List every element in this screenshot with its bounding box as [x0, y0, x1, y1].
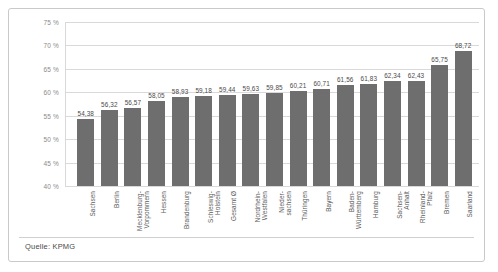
bar-value-label: 62,43: [408, 72, 425, 79]
bar[interactable]: [384, 81, 401, 186]
y-axis-tick-label: 65 %: [43, 65, 59, 72]
x-axis-category-line: Anhalt: [403, 191, 410, 219]
bar[interactable]: [266, 93, 283, 186]
x-axis-category-label: Bremen: [443, 191, 450, 214]
bar-group[interactable]: 61,83Hamburg: [357, 22, 381, 186]
bar-value-label: 65,75: [431, 56, 448, 63]
x-axis-category-line: Saarland: [466, 191, 473, 217]
x-axis-category-label: Hamburg: [372, 191, 379, 218]
x-axis-category-line: Mecklenburg-: [136, 191, 143, 231]
bar-group[interactable]: 62,34Sachsen-Anhalt: [381, 22, 405, 186]
bar-group[interactable]: 60,21Thüringen: [286, 22, 310, 186]
bar-group[interactable]: 59,85Nieder-sachsen: [263, 22, 287, 186]
bar[interactable]: [408, 81, 425, 186]
x-axis-category-line: Vorpommern: [144, 191, 151, 231]
bar-group[interactable]: 54,38Sachsen: [74, 22, 98, 186]
bar[interactable]: [242, 94, 259, 186]
bar-group[interactable]: 61,56Baden-Württemberg: [333, 22, 357, 186]
bar-value-label: 56,32: [101, 101, 118, 108]
x-axis-category-line: Nieder-: [278, 191, 285, 216]
bar-group[interactable]: 60,71Bayern: [310, 22, 334, 186]
bar-group[interactable]: 58,93Brandenburg: [168, 22, 192, 186]
x-axis-category-line: Bayern: [325, 191, 332, 212]
x-axis-category-line: Sachsen: [89, 191, 96, 217]
y-axis-tick-label: 40 %: [43, 183, 59, 190]
bar[interactable]: [77, 119, 94, 186]
x-axis-category-line: Thüringen: [301, 191, 308, 221]
bar-value-label: 61,56: [337, 76, 354, 83]
bar-value-label: 61,83: [361, 75, 378, 82]
x-axis-category-label: Baden-Württemberg: [348, 191, 363, 229]
bar[interactable]: [124, 108, 141, 186]
bar-value-label: 58,93: [172, 88, 189, 95]
bar-group[interactable]: 68,72Saarland: [451, 22, 475, 186]
x-axis-category-label: Mecklenburg-Vorpommern: [136, 191, 151, 231]
bar-value-label: 58,05: [148, 92, 165, 99]
bar-group[interactable]: 58,05Hessen: [145, 22, 169, 186]
bar-group[interactable]: 59,18Schleswig-Holstein: [192, 22, 216, 186]
x-axis-category-label: Berlin: [113, 191, 120, 208]
x-axis-category-line: Hessen: [160, 191, 167, 213]
bar-value-label: 56,57: [125, 99, 142, 106]
bar[interactable]: [195, 96, 212, 186]
x-axis-category-line: Holstein: [214, 191, 221, 223]
x-axis-category-label: Nordrhein-Westfalen: [254, 191, 269, 222]
bar-group[interactable]: 62,43Rheinland-Pfalz: [404, 22, 428, 186]
bar-value-label: 59,18: [195, 87, 212, 94]
bar-value-label: 59,85: [266, 84, 283, 91]
bar-value-label: 59,44: [219, 86, 236, 93]
x-axis-category-label: Gesamt Ø: [230, 191, 237, 221]
y-axis-tick-label: 45 %: [43, 159, 59, 166]
y-axis-line: [65, 22, 66, 186]
x-axis-category-label: Sachsen: [89, 191, 96, 217]
bar[interactable]: [148, 101, 165, 186]
bar[interactable]: [313, 89, 330, 186]
caption-divider: [19, 237, 474, 238]
y-axis-tick-label: 70 %: [43, 42, 59, 49]
bar-value-label: 60,21: [290, 82, 307, 89]
x-axis-category-line: Pfalz: [427, 191, 434, 223]
bar[interactable]: [172, 97, 189, 186]
y-axis-tick-label: 50 %: [43, 136, 59, 143]
bar[interactable]: [431, 65, 448, 186]
bar-group[interactable]: 56,57Mecklenburg-Vorpommern: [121, 22, 145, 186]
x-axis-category-label: Thüringen: [301, 191, 308, 221]
x-axis-category-line: sachsen: [285, 191, 292, 216]
bar[interactable]: [290, 91, 307, 186]
y-axis-tick-label: 75 %: [43, 19, 59, 26]
x-axis-category-label: Bayern: [325, 191, 332, 212]
x-axis-category-line: Gesamt Ø: [230, 191, 237, 221]
x-axis-category-line: Schleswig-: [207, 191, 214, 223]
bar-group[interactable]: 59,63Nordrhein-Westfalen: [239, 22, 263, 186]
plot-area: 75 %70 %65 %60 %55 %50 %45 %40 % 54,38Sa…: [65, 22, 479, 186]
chart-figure: 75 %70 %65 %60 %55 %50 %45 %40 % 54,38Sa…: [8, 8, 485, 262]
x-axis-category-line: Württemberg: [356, 191, 363, 229]
source-caption: Quelle: KPMG: [25, 242, 75, 251]
bar[interactable]: [219, 95, 236, 186]
bar[interactable]: [455, 51, 472, 186]
x-axis-category-label: Schleswig-Holstein: [207, 191, 222, 223]
bar[interactable]: [101, 110, 118, 186]
y-axis-tick-label: 60 %: [43, 89, 59, 96]
x-axis-category-line: Nordrhein-: [254, 191, 261, 222]
y-axis-tick-label: 55 %: [43, 112, 59, 119]
x-axis-category-line: Westfalen: [261, 191, 268, 222]
bar[interactable]: [360, 84, 377, 186]
bar-value-label: 59,63: [243, 85, 260, 92]
x-axis-category-line: Hamburg: [372, 191, 379, 218]
gridline: 40 %: [65, 186, 479, 187]
bar-group[interactable]: 59,44Gesamt Ø: [216, 22, 240, 186]
x-axis-category-label: Nieder-sachsen: [278, 191, 293, 216]
bar-value-label: 68,72: [455, 42, 472, 49]
bar-group[interactable]: 65,75Bremen: [428, 22, 452, 186]
x-axis-category-label: Saarland: [466, 191, 473, 217]
bar-value-label: 54,38: [77, 110, 94, 117]
x-axis-category-line: Bremen: [443, 191, 450, 214]
bar[interactable]: [337, 85, 354, 186]
x-axis-category-line: Sachsen-: [396, 191, 403, 219]
x-axis-category-label: Rheinland-Pfalz: [419, 191, 434, 223]
x-axis-category-line: Berlin: [113, 191, 120, 208]
x-axis-category-label: Hessen: [160, 191, 167, 213]
bar-group[interactable]: 56,32Berlin: [98, 22, 122, 186]
x-axis-category-label: Brandenburg: [183, 191, 190, 229]
